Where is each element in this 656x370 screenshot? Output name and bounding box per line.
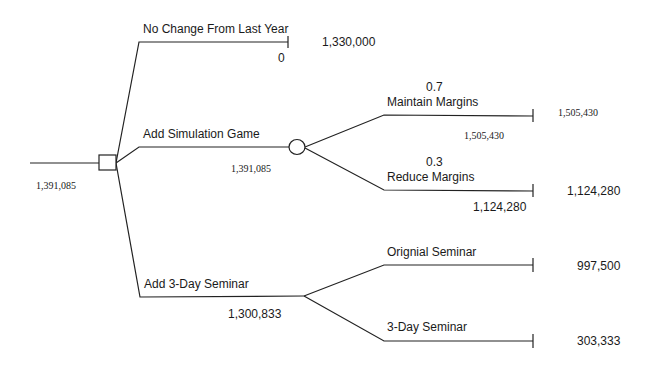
branch-label-no-change: No Change From Last Year: [143, 22, 288, 36]
branch-no-change-line: [116, 42, 288, 163]
branch-value-simulation: 1,391,085: [231, 163, 271, 174]
branch-value-no-change: 0: [278, 51, 285, 65]
branch-original-seminar-line: [304, 265, 533, 296]
branch-label-seminar: Add 3-Day Seminar: [144, 277, 249, 291]
branch-3day-seminar-line: [304, 296, 533, 341]
payoff-maintain: 1,505,430: [558, 107, 598, 118]
branch-simulation-line: [116, 147, 289, 163]
payoff-no-change: 1,330,000: [322, 35, 376, 49]
branch-value-maintain: 1,505,430: [464, 130, 504, 141]
branch-value-reduce: 1,124,280: [473, 200, 527, 214]
branch-value-seminar: 1,300,833: [228, 307, 282, 321]
branch-label-simulation: Add Simulation Game: [143, 127, 260, 141]
payoff-3day-seminar: 303,333: [577, 334, 621, 348]
root-value: 1,391,085: [36, 180, 76, 191]
chance-node-simulation-icon: [289, 140, 305, 155]
probability-reduce: 0.3: [426, 155, 443, 169]
decision-tree-diagram: 1,391,085 No Change From Last Year 0 1,3…: [0, 0, 656, 370]
branch-label-reduce: Reduce Margins: [387, 170, 474, 184]
payoff-reduce: 1,124,280: [567, 184, 621, 198]
decision-node-icon: [99, 155, 116, 170]
probability-maintain: 0.7: [426, 80, 443, 94]
payoff-original-seminar: 997,500: [577, 259, 621, 273]
branch-label-3day-seminar: 3-Day Seminar: [387, 320, 467, 334]
branch-label-maintain: Maintain Margins: [387, 95, 478, 109]
branch-label-original-seminar: Orignial Seminar: [387, 245, 476, 259]
